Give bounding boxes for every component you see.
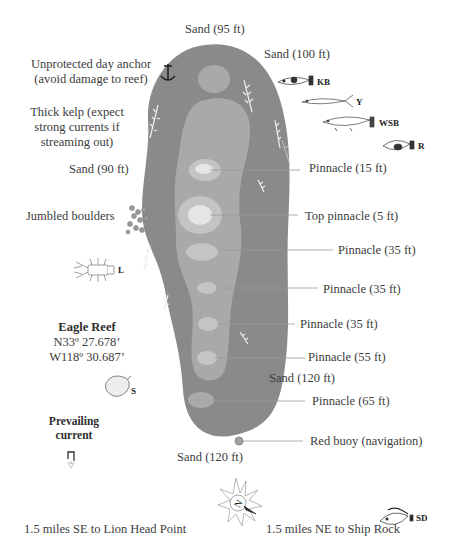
- label-kelp-line2: strong currents if: [22, 120, 132, 135]
- label-pinnacle-65: Pinnacle (65 ft): [312, 394, 390, 409]
- label-kelp: Thick kelp (expect strong currents if st…: [22, 105, 132, 150]
- tag-kb: KB: [317, 77, 330, 87]
- rockfish-icon: [383, 140, 414, 150]
- label-kelp-line3: streaming out): [22, 135, 132, 150]
- current-arrow-icon: [68, 452, 74, 468]
- tag-sd: SD: [416, 513, 428, 523]
- pinnacle-35b: [197, 282, 217, 294]
- pinnacle-55: [197, 351, 217, 365]
- label-boulders: Jumbled boulders: [26, 209, 115, 224]
- label-sand-120-bottom: Sand (120 ft): [177, 450, 243, 465]
- prevailing-line2: current: [44, 428, 104, 442]
- label-anchor-line1: Unprotected day anchor: [22, 57, 160, 72]
- tag-r: R: [418, 141, 425, 151]
- label-pinnacle-15: Pinnacle (15 ft): [309, 161, 387, 176]
- reef-title: Eagle Reef: [44, 320, 130, 335]
- pinnacle-35a: [186, 243, 218, 261]
- red-buoy-icon: [235, 437, 243, 445]
- tag-s: S: [131, 386, 136, 396]
- label-sand-95: Sand (95 ft): [185, 22, 245, 37]
- label-anchor: Unprotected day anchor (avoid damage to …: [22, 57, 160, 87]
- kelp-bass-icon: [278, 76, 313, 85]
- reef-latitude: N33º 27.678’: [44, 335, 130, 350]
- prevailing-current-label: Prevailing current: [44, 414, 104, 442]
- yellowtail-icon: [302, 95, 353, 107]
- label-pinnacle-35c: Pinnacle (35 ft): [300, 317, 378, 332]
- compass-rose-icon: N: [218, 478, 262, 526]
- label-red-buoy: Red buoy (navigation): [310, 434, 422, 449]
- label-top-pinnacle-5: Top pinnacle (5 ft): [305, 209, 398, 224]
- label-anchor-line2: (avoid damage to reef): [22, 72, 160, 87]
- reef-info: Eagle Reef N33º 27.678’ W118º 30.687’: [44, 320, 130, 365]
- label-sand-90: Sand (90 ft): [69, 162, 129, 177]
- prevailing-line1: Prevailing: [44, 414, 104, 428]
- label-pinnacle-55: Pinnacle (55 ft): [308, 350, 386, 365]
- reef-longitude: W118º 30.687’: [44, 350, 130, 365]
- label-ship-rock: 1.5 miles NE to Ship Rock: [266, 522, 400, 537]
- pinnacle-15-top: [195, 164, 213, 174]
- label-sand-100: Sand (100 ft): [264, 47, 330, 62]
- white-seabass-icon: [323, 117, 374, 131]
- pinnacle-35c: [198, 317, 218, 331]
- tag-wsb: WSB: [379, 118, 399, 128]
- label-sand-120-mid: Sand (120 ft): [269, 371, 335, 386]
- pinnacle-upper: [198, 65, 230, 93]
- top-pinnacle-top: [188, 205, 212, 225]
- lobster-icon: [74, 258, 114, 282]
- label-pinnacle-35a: Pinnacle (35 ft): [338, 243, 416, 258]
- pinnacle-65: [188, 392, 214, 408]
- tag-y: Y: [356, 97, 363, 107]
- tag-l: L: [118, 265, 124, 275]
- label-kelp-line1: Thick kelp (expect: [22, 105, 132, 120]
- scallop-icon: [106, 376, 132, 397]
- label-pinnacle-35b: Pinnacle (35 ft): [323, 282, 401, 297]
- label-lion-head: 1.5 miles SE to Lion Head Point: [24, 522, 186, 537]
